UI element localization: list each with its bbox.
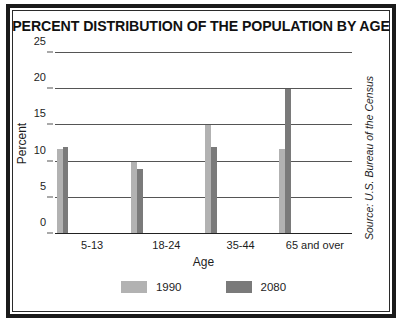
bar-group: 18-24 — [129, 53, 203, 234]
x-tick-label: 5-13 — [55, 239, 129, 251]
bar-2080-5-13 — [63, 147, 69, 234]
legend-item-1990: 1990 — [121, 281, 182, 293]
plot-area: 0510152025 5-1318-2435-4465 and over — [55, 53, 352, 234]
legend-swatch-1990 — [121, 281, 147, 293]
x-axis-title: Age — [55, 255, 352, 269]
x-tick-label: 65 and over — [278, 239, 352, 251]
y-tick-mark — [47, 160, 53, 161]
legend-item-2080: 2080 — [226, 281, 287, 293]
x-tick-label: 18-24 — [129, 239, 203, 251]
y-tick-mark — [47, 88, 53, 89]
y-tick-label: 0 — [40, 216, 46, 228]
bar-2080-35-44 — [211, 147, 217, 234]
bar-group: 5-13 — [55, 53, 129, 234]
y-tick-label: 10 — [34, 143, 46, 155]
legend-label: 2080 — [261, 281, 287, 293]
y-tick-mark — [47, 233, 53, 234]
chart-title: PERCENT DISTRIBUTION OF THE POPULATION B… — [12, 18, 390, 34]
y-tick-mark — [47, 124, 53, 125]
y-axis-title: Percent — [14, 53, 30, 234]
chart-figure: PERCENT DISTRIBUTION OF THE POPULATION B… — [0, 0, 402, 323]
y-tick-label: 5 — [40, 180, 46, 192]
chart-legend: 19902080 — [55, 281, 352, 293]
y-tick-label: 20 — [34, 71, 46, 83]
y-tick-mark — [47, 52, 53, 53]
bar-group: 65 and over — [278, 53, 352, 234]
bar-2080-18-24 — [137, 169, 143, 234]
legend-label: 1990 — [156, 281, 182, 293]
bar-2080-65-and-over — [285, 89, 291, 234]
x-tick-label: 35-44 — [204, 239, 278, 251]
bar-group: 35-44 — [204, 53, 278, 234]
y-tick-label: 15 — [34, 107, 46, 119]
y-tick-label: 25 — [34, 35, 46, 47]
legend-swatch-2080 — [226, 281, 252, 293]
y-tick-mark — [47, 196, 53, 197]
source-note: Source: U.S. Bureau of the Census — [362, 62, 377, 240]
x-axis-line — [55, 233, 352, 235]
